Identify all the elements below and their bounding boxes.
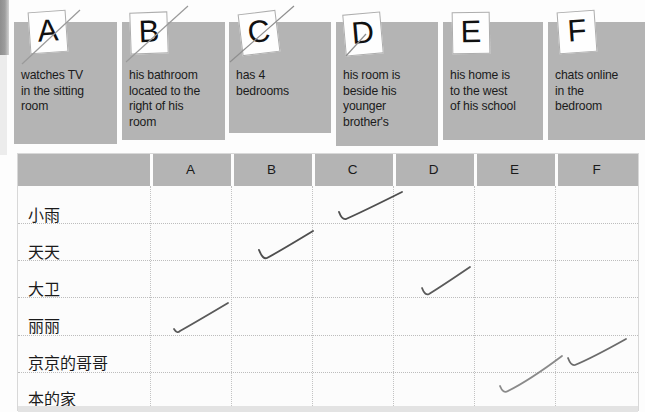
- column-header-e[interactable]: E: [474, 154, 555, 186]
- column-header-c[interactable]: C: [312, 154, 393, 186]
- checkmark-row6-col-e: [494, 350, 570, 396]
- row-label-3: 大卫: [28, 276, 60, 300]
- clue-badge-c-letter: C: [246, 15, 272, 48]
- row-label-1: 小雨: [28, 202, 60, 226]
- worksheet-page: watches TV in the sitting room A his bat…: [0, 0, 645, 412]
- clue-badge-a: A: [28, 10, 69, 55]
- clue-badge-d: D: [342, 11, 384, 56]
- clue-badge-d-letter: D: [350, 16, 375, 49]
- column-header-d[interactable]: D: [393, 154, 474, 186]
- grid-row-line: [18, 297, 638, 298]
- grid-row-line: [18, 335, 638, 336]
- clue-badge-c: C: [238, 10, 281, 56]
- column-header-b[interactable]: B: [231, 154, 312, 186]
- clue-badge-e: E: [452, 12, 491, 55]
- grid-column-line: [150, 186, 151, 410]
- clue-badge-e-letter: E: [460, 16, 481, 47]
- checkmark-row4-col-a: [170, 301, 236, 335]
- clue-card-e-text: his home is to the west of his school: [450, 68, 539, 115]
- clue-badge-b-letter: B: [138, 16, 160, 48]
- clue-card-a-text: watches TV in the sitting room: [21, 68, 113, 115]
- clue-card-c-text: has 4 bedrooms: [236, 68, 327, 99]
- grid-row-line: [18, 260, 638, 261]
- grid-row-line: [18, 372, 638, 373]
- checkmark-row1-col-c: [336, 190, 408, 224]
- clue-badge-f: F: [557, 10, 598, 55]
- clue-card-row: watches TV in the sitting room A his bat…: [0, 0, 645, 152]
- grid-row-line: [18, 223, 638, 224]
- grid-column-line: [312, 186, 313, 410]
- clue-badge-a-letter: A: [36, 14, 59, 46]
- grid-column-line: [474, 186, 475, 410]
- row-label-5: 京京的哥哥: [28, 350, 108, 374]
- clue-badge-b: B: [129, 11, 168, 54]
- row-label-4: 丽丽: [28, 313, 60, 337]
- clue-badge-f-letter: F: [566, 14, 587, 46]
- column-header-a[interactable]: A: [150, 154, 231, 186]
- checkmark-row3-col-d: [418, 264, 480, 298]
- clue-card-f-text: chats online in the bedroom: [555, 68, 641, 115]
- answer-grid-table[interactable]: A B C D E F 小雨 天天 大卫 丽丽 京京的哥哥 本的家: [18, 154, 638, 410]
- grid-column-line: [231, 186, 232, 410]
- clue-card-b-text: his bathroom located to the right of his…: [129, 68, 221, 130]
- column-header-f[interactable]: F: [555, 154, 638, 186]
- grid-column-line: [393, 186, 394, 410]
- checkmark-row5-col-f: [564, 336, 634, 372]
- row-label-2: 天天: [28, 239, 60, 263]
- page-bottom-shadow: [18, 406, 638, 412]
- clue-card-d-text: his room is beside his younger brother's: [343, 68, 434, 130]
- grid-column-line: [555, 186, 556, 410]
